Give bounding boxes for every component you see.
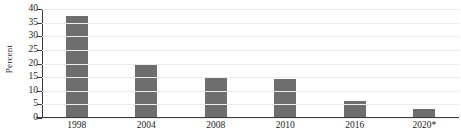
bar-2010	[274, 79, 296, 117]
y-axis-tick-label: 35	[16, 18, 38, 28]
y-axis-tick-label: 15	[16, 72, 38, 82]
gridline	[42, 9, 459, 10]
y-axis-tick-label: 30	[16, 32, 38, 42]
y-axis-tick-mark	[37, 64, 42, 65]
y-axis-tick-labels: 0510152025303540	[16, 0, 38, 122]
bar-2020	[413, 109, 435, 117]
x-axis-tick-label: 2008	[181, 120, 251, 130]
gridline	[42, 77, 459, 78]
gridline	[42, 118, 459, 119]
x-axis-tick-label: 2016	[320, 120, 390, 130]
y-axis-title: Percent	[2, 0, 16, 118]
y-axis-tick-mark	[37, 104, 42, 105]
bar-chart: Percent 0510152025303540 199820042008201…	[0, 0, 461, 140]
gridline	[42, 91, 459, 92]
y-axis-tick-label: 20	[16, 59, 38, 69]
y-axis-tick-label: 40	[16, 4, 38, 14]
y-axis-tick-label: 10	[16, 86, 38, 96]
bar-2016	[344, 101, 366, 117]
y-axis-tick-label: 25	[16, 45, 38, 55]
x-axis-tick-label: 1998	[42, 120, 112, 130]
plot-area	[42, 9, 459, 118]
gridline	[42, 104, 459, 105]
gridline	[42, 50, 459, 51]
bar-1998	[66, 16, 88, 117]
x-axis-tick-labels: 199820042008201020162020*	[42, 120, 459, 130]
y-axis-title-text: Percent	[4, 45, 14, 73]
bar-2008	[205, 78, 227, 117]
y-axis-tick-mark	[37, 36, 42, 37]
y-axis-tick-label: 0	[16, 113, 38, 123]
y-axis-tick-label: 5	[16, 100, 38, 110]
y-axis-tick-mark	[37, 23, 42, 24]
gridline	[42, 64, 459, 65]
y-axis-tick-mark	[37, 77, 42, 78]
x-axis-tick-label: 2010	[251, 120, 321, 130]
x-axis-tick-label: 2020*	[390, 120, 460, 130]
y-axis-tick-mark	[37, 118, 42, 119]
y-axis-tick-mark	[37, 91, 42, 92]
y-axis-tick-mark	[37, 50, 42, 51]
x-axis-tick-label: 2004	[112, 120, 182, 130]
gridline	[42, 36, 459, 37]
gridline	[42, 23, 459, 24]
y-axis-tick-mark	[37, 9, 42, 10]
